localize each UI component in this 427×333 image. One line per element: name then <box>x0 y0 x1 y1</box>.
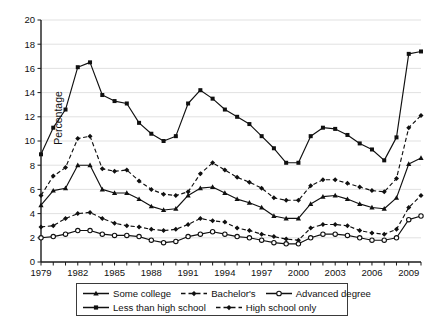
data-point-marker <box>247 228 252 233</box>
data-point-marker <box>333 232 337 236</box>
x-axis-tick-label: 1991 <box>178 267 199 278</box>
data-point-marker <box>39 236 43 240</box>
data-point-marker <box>276 291 281 296</box>
data-point-marker <box>211 97 215 101</box>
data-point-marker <box>419 193 424 198</box>
data-point-marker <box>321 232 325 236</box>
data-point-marker <box>345 233 349 237</box>
data-point-marker <box>137 224 142 229</box>
x-axis-tick-label: 1982 <box>67 267 88 278</box>
data-point-marker <box>394 236 398 240</box>
data-point-marker <box>124 223 129 228</box>
data-point-marker <box>174 239 178 243</box>
data-point-marker <box>284 198 289 203</box>
legend-item-advanced-degree[interactable]: Advanced degree <box>265 288 371 299</box>
data-point-marker <box>419 214 423 218</box>
data-point-marker <box>333 177 338 182</box>
series-line <box>41 195 421 240</box>
legend-row-2: Less than high schoolHigh school only <box>82 300 343 314</box>
x-axis-tick-label: 2000 <box>288 267 309 278</box>
y-axis-title: Percentage <box>52 58 64 178</box>
data-point-marker <box>345 133 349 137</box>
data-point-marker <box>223 232 227 236</box>
y-axis-tick-label: 16 <box>24 63 35 74</box>
data-point-marker <box>113 99 117 103</box>
data-point-marker <box>198 216 203 221</box>
data-point-marker <box>320 222 325 227</box>
data-point-marker <box>407 52 411 56</box>
x-axis-tick-label: 1979 <box>30 267 51 278</box>
data-point-marker <box>370 238 374 242</box>
data-point-marker <box>247 236 251 240</box>
data-point-marker <box>88 60 92 64</box>
data-point-marker <box>235 234 239 238</box>
data-point-marker <box>382 232 387 237</box>
data-point-marker <box>357 184 362 189</box>
data-point-marker <box>112 221 117 226</box>
legend-item-high-school-only[interactable]: High school only <box>215 302 316 313</box>
data-point-marker <box>369 230 374 235</box>
chart-legend: Some collegeBachelor'sAdvanced degree Le… <box>76 283 348 316</box>
legend-item-less-than-high-school[interactable]: Less than high school <box>82 302 206 313</box>
legend-item-bachelor-s[interactable]: Bachelor's <box>180 288 256 299</box>
data-point-marker <box>284 161 288 165</box>
data-point-marker <box>418 155 423 160</box>
data-point-marker <box>259 238 263 242</box>
data-point-marker <box>308 226 313 231</box>
data-point-marker <box>75 136 80 141</box>
chart-container: Percentage 02468101214161820197919821985… <box>0 0 427 333</box>
data-point-marker <box>185 193 190 198</box>
data-point-marker <box>63 216 68 221</box>
data-point-marker <box>63 185 68 190</box>
series-advanced-degree <box>39 214 423 246</box>
data-point-marker <box>149 204 154 209</box>
data-point-marker <box>235 226 240 231</box>
data-point-marker <box>64 108 68 112</box>
data-point-marker <box>149 227 154 232</box>
data-point-marker <box>382 238 386 242</box>
data-point-marker <box>284 237 289 242</box>
y-axis-tick-label: 4 <box>30 208 35 219</box>
data-point-marker <box>321 126 325 130</box>
data-point-marker <box>271 234 276 239</box>
data-point-marker <box>125 101 129 105</box>
data-point-marker <box>173 193 178 198</box>
data-point-marker <box>247 122 251 126</box>
data-point-marker <box>382 158 386 162</box>
data-point-marker <box>419 49 423 53</box>
data-point-marker <box>112 233 116 237</box>
y-axis-tick-label: 6 <box>30 184 35 195</box>
x-axis-tick-label: 2003 <box>325 267 346 278</box>
y-axis-tick-label: 14 <box>24 87 35 98</box>
x-axis-tick-label: 2006 <box>361 267 382 278</box>
data-point-marker <box>51 223 56 228</box>
legend-item-some-college[interactable]: Some college <box>82 288 171 299</box>
data-point-marker <box>345 181 350 186</box>
data-point-marker <box>271 195 276 200</box>
data-point-marker <box>76 65 80 69</box>
x-axis-tick-label: 2009 <box>398 267 419 278</box>
legend-marker-triangle-icon <box>82 288 110 299</box>
series-less-than-high-school <box>39 49 423 164</box>
data-point-marker <box>198 171 203 176</box>
data-point-marker <box>162 139 166 143</box>
data-point-marker <box>296 161 300 165</box>
x-axis-tick-label: 1997 <box>251 267 272 278</box>
legend-marker-diamond-icon <box>215 302 243 313</box>
data-point-marker <box>333 127 337 131</box>
data-point-marker <box>284 242 288 246</box>
legend-label: Bachelor's <box>211 288 256 299</box>
y-axis-tick-label: 18 <box>24 39 35 50</box>
x-axis-tick-label: 1988 <box>141 267 162 278</box>
data-point-marker <box>222 220 227 225</box>
data-point-marker <box>63 232 67 236</box>
y-axis-tick-label: 20 <box>24 14 35 25</box>
series-line <box>41 158 421 219</box>
data-point-marker <box>308 201 313 206</box>
y-axis-tick-label: 8 <box>30 160 35 171</box>
data-point-marker <box>223 108 227 112</box>
data-point-marker <box>198 88 202 92</box>
y-axis-tick-label: 12 <box>24 111 35 122</box>
data-point-marker <box>369 188 374 193</box>
data-point-marker <box>357 228 362 233</box>
